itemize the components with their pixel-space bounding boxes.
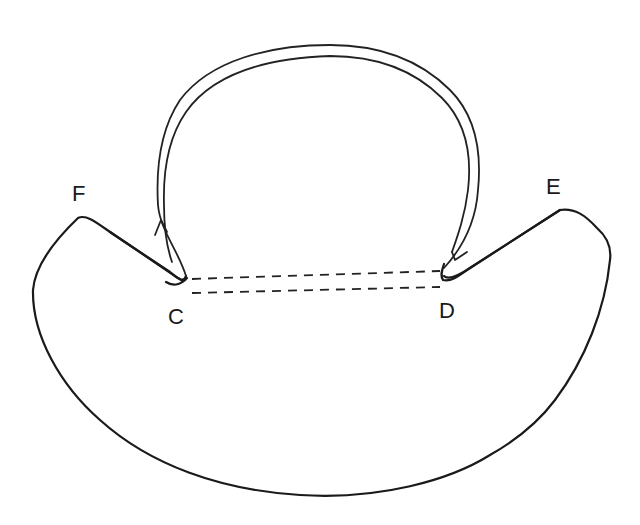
label-f: F xyxy=(72,183,85,205)
notch-d xyxy=(441,210,560,280)
label-e: E xyxy=(546,176,561,198)
arch-inner xyxy=(164,56,469,262)
diagram-canvas xyxy=(0,0,640,525)
arrowhead-down-icon xyxy=(452,252,467,260)
bowl-outline xyxy=(33,210,610,496)
label-d: D xyxy=(439,300,455,322)
dashed-line-upper xyxy=(192,271,440,279)
dashed-line-lower xyxy=(192,287,440,293)
arch-outer xyxy=(158,45,480,276)
notch-c xyxy=(110,232,186,280)
label-c: C xyxy=(168,306,184,328)
